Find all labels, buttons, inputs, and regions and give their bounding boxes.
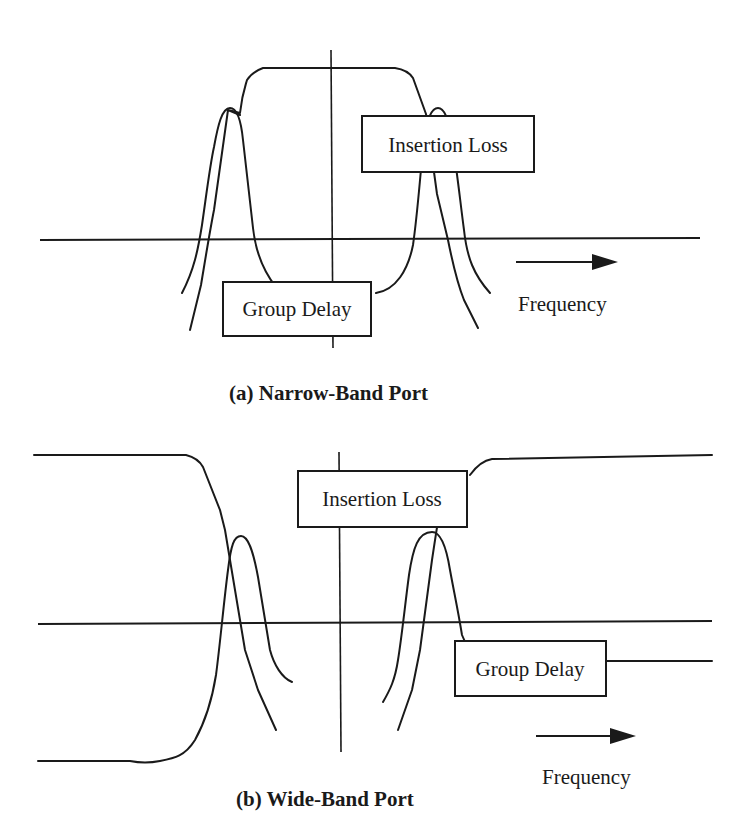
panel-b-insertion-loss-left (34, 455, 276, 730)
figure-canvas: Insertion Loss Group Delay Frequency (a)… (0, 0, 744, 839)
panel-a-insertion-loss-label: Insertion Loss (388, 133, 508, 157)
panel-a-narrow-band: Insertion Loss Group Delay Frequency (a)… (40, 50, 700, 476)
panel-b-frequency-arrow-icon (610, 728, 636, 744)
panel-a-frequency-arrow-icon (592, 254, 618, 270)
panel-b-group-delay-left (38, 536, 292, 763)
panel-a-frequency-label: Frequency (518, 292, 607, 316)
panel-b-frequency-label: Frequency (542, 765, 631, 789)
panel-b-horizontal-axis (38, 621, 712, 624)
panel-a-group-delay-left-peak (182, 108, 276, 293)
panel-b-caption: (b) Wide-Band Port (236, 787, 414, 811)
panel-a-horizontal-axis (40, 238, 700, 240)
panel-b-group-delay-label: Group Delay (475, 657, 585, 681)
panel-b-wide-band: Insertion Loss Group Delay Frequency (b)… (34, 452, 712, 811)
panel-a-group-delay-label: Group Delay (242, 297, 352, 321)
panel-b-insertion-loss-label: Insertion Loss (322, 487, 442, 511)
panel-a-caption: (a) Narrow-Band Port (229, 381, 428, 405)
